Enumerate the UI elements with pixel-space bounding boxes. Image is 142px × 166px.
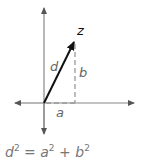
- label-b: b: [79, 66, 87, 79]
- label-a: a: [56, 106, 64, 119]
- formula-plus: +: [59, 144, 71, 160]
- vector-d: [44, 42, 74, 103]
- label-z: z: [77, 24, 84, 37]
- formula-a-exp: 2: [49, 143, 55, 153]
- diagram-canvas: [0, 0, 142, 166]
- formula-a: a: [40, 144, 49, 160]
- formula-b-exp: 2: [84, 143, 90, 153]
- formula-d: d: [5, 144, 14, 160]
- formula-equals: =: [24, 144, 36, 160]
- label-d: d: [50, 60, 58, 73]
- formula-b: b: [75, 144, 84, 160]
- pythagorean-formula: d2 = a2 + b2: [5, 143, 90, 160]
- formula-d-exp: 2: [14, 143, 20, 153]
